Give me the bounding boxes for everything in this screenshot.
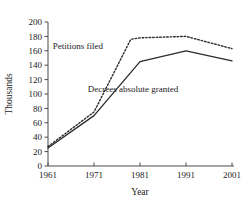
x-tick-label: 1961 <box>39 170 57 180</box>
line-chart: 020406080100120140160180200 196119711981… <box>0 0 251 205</box>
y-tick-label: 80 <box>33 104 43 114</box>
y-tick-label: 20 <box>33 147 43 157</box>
series-label-petitions-filed: Petitions filed <box>53 41 104 51</box>
series-line-decrees-absolute-granted <box>48 51 232 148</box>
series-label-decrees-absolute-granted: Decrees absolute granted <box>88 84 179 94</box>
y-tick-label: 160 <box>29 46 43 56</box>
x-axis: 19611971198119912001 <box>39 163 241 181</box>
y-axis: 020406080100120140160180200 <box>29 17 49 171</box>
y-tick-label: 120 <box>29 75 43 85</box>
x-tick-label: 1981 <box>131 170 149 180</box>
y-tick-label: 60 <box>33 118 43 128</box>
y-tick-label: 40 <box>33 132 43 142</box>
x-tick-label: 1991 <box>177 170 195 180</box>
x-tick-label: 2001 <box>223 170 241 180</box>
series-annotations: Petitions filedDecrees absolute granted <box>53 41 179 94</box>
y-tick-label: 200 <box>29 17 43 27</box>
x-tick-label: 1971 <box>85 170 103 180</box>
y-axis-title: Thousands <box>4 73 14 114</box>
y-tick-label: 180 <box>29 32 43 42</box>
y-tick-label: 140 <box>29 60 43 70</box>
chart-canvas: 020406080100120140160180200 196119711981… <box>0 0 251 205</box>
x-axis-title: Year <box>131 187 149 197</box>
y-tick-label: 100 <box>29 89 43 99</box>
